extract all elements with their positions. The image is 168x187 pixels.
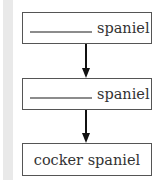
- fill-in-blank-2[interactable]: [30, 97, 92, 99]
- box-2: spaniel: [22, 78, 152, 110]
- arrow-down-icon: [82, 68, 90, 78]
- arrow-down-icon: [82, 133, 90, 143]
- box-3-label: cocker spaniel: [34, 152, 140, 168]
- box-1-label: spaniel: [97, 20, 150, 36]
- arrow-1: [85, 44, 87, 70]
- arrow-2: [85, 110, 87, 135]
- box-1: spaniel: [22, 12, 152, 44]
- box-2-label: spaniel: [97, 86, 150, 102]
- left-margin-bar: [3, 0, 13, 180]
- fill-in-blank-1[interactable]: [30, 31, 92, 33]
- box-3: cocker spaniel: [22, 143, 152, 176]
